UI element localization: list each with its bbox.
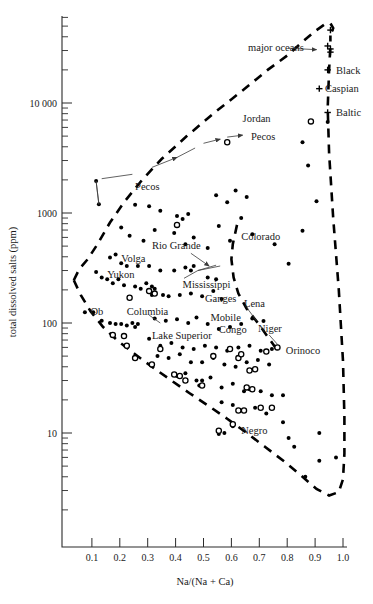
data-point-open [127,295,132,300]
data-point-open [227,346,232,351]
data-point [245,360,249,364]
data-point [200,360,204,364]
data-point [225,200,229,204]
leader-line [152,157,177,167]
data-point [253,406,257,410]
data-point [181,217,185,221]
leader-line [102,174,133,178]
data-point [181,345,185,349]
data-point-open [216,428,221,433]
x-tick-label: 0.8 [281,552,294,563]
annotation-label: Lake Superior [152,330,212,341]
x-tick-label: 1.0 [337,552,350,563]
data-point [200,294,204,298]
data-point-open [230,422,235,427]
x-axis-title: Na/(Na + Ca) [176,576,234,588]
data-point [178,352,182,356]
data-point [236,345,240,349]
annotation-label: Baltic [336,107,361,118]
data-point [144,281,148,285]
data-point-open [110,332,115,337]
data-point [315,199,319,203]
data-point [111,281,115,285]
data-point [186,321,190,325]
data-point-open [244,385,249,390]
data-point [139,287,143,291]
annotation-label: Orinoco [286,345,320,356]
data-point [220,385,224,389]
data-point [192,347,196,351]
data-point [83,310,87,314]
data-point [273,242,277,246]
data-point [245,195,249,199]
data-point [206,246,210,250]
annotation-label: Black [336,65,361,76]
envelope-upper-arm [74,23,333,280]
annotation-label: Niger [258,323,282,334]
data-point-open [258,405,263,410]
data-point [189,360,193,364]
annotation-label: Columbia [127,306,169,317]
annotation-label: Mobile [211,312,242,323]
data-point-open [247,368,252,373]
data-point [94,270,98,274]
data-point [306,164,310,168]
data-point [167,356,171,360]
data-point [256,358,260,362]
data-point [114,322,118,326]
annotation-label: Colorado [241,231,280,242]
y-tick-label: 100 [42,318,57,329]
pecos-trajectory-stub [96,181,99,204]
data-point-open [264,349,269,354]
data-point-plus [327,49,333,55]
data-point [195,379,199,383]
x-tick-label: 0.2 [114,552,127,563]
data-point [267,362,271,366]
data-point [217,224,221,228]
data-point [259,349,263,353]
data-point [228,239,232,243]
x-tick-label: 0.5 [197,552,210,563]
data-point [133,203,137,207]
annotation-label: Negro [241,425,267,436]
data-point-open [149,362,154,367]
data-point [326,120,330,124]
y-axis-title: total dissolved salts (ppm) [7,226,19,337]
annotation-label: Caspian [325,83,360,94]
data-point [234,189,238,193]
leader-line [198,266,220,271]
data-point [200,379,204,383]
data-point [147,204,151,208]
data-point [133,325,137,329]
data-point [222,431,226,435]
x-tick-label: 0.7 [253,552,266,563]
gibbs-diagram-figure: 10100100010 000 0.10.20.30.40.50.60.70.8… [0,0,373,604]
data-point [259,389,263,393]
data-point [164,319,168,323]
data-point-open [239,352,244,357]
annotation-label: Volga [121,253,146,264]
annotation-label: Lena [244,298,265,309]
x-tick-label: 0.4 [169,552,182,563]
data-point [248,344,252,348]
data-point-open [241,408,246,413]
data-point [183,265,187,269]
data-point [186,212,190,216]
data-point [100,319,104,323]
leader-line [227,135,242,137]
data-point-open [133,356,138,361]
y-axis-ticks [62,17,72,509]
y-axis-tick-labels: 10100100010 000 [30,98,58,439]
data-point [125,324,129,328]
data-point [334,455,338,459]
data-point [281,420,285,424]
annotation-label: Yukon [107,269,135,280]
data-point [234,365,238,369]
data-point [175,317,179,321]
data-point [136,264,140,268]
data-point [161,293,165,297]
annotation-label: Jordan [243,113,272,124]
x-tick-label: 0.9 [309,552,322,563]
data-point [292,445,296,449]
data-point [303,475,307,479]
